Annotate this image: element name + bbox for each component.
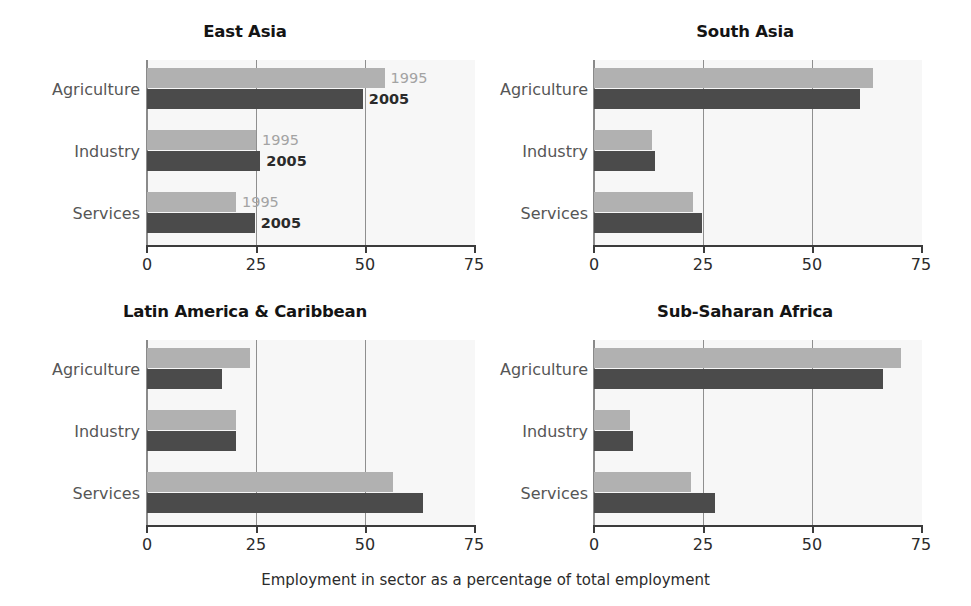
panel-title: Sub-Saharan Africa <box>525 302 965 321</box>
bar-agriculture-2005 <box>594 89 860 109</box>
x-tick-label-0: 0 <box>589 255 599 274</box>
bar-industry-2005 <box>594 151 655 171</box>
bar-industry-1995 <box>147 130 256 150</box>
bar-services-2005 <box>594 493 715 513</box>
category-label-agriculture: Agriculture <box>0 79 140 98</box>
plot-area: 0 25 50 75 <box>594 60 922 245</box>
x-tick-50 <box>365 526 367 533</box>
plot-area: 0 25 50 75 <box>594 340 922 525</box>
x-axis-line <box>593 245 923 247</box>
bar-agriculture-2005 <box>147 89 363 109</box>
bar-industry-1995 <box>594 130 652 150</box>
x-tick-label-50: 50 <box>355 255 375 274</box>
x-tick-25 <box>256 526 258 533</box>
category-label-industry: Industry <box>0 141 140 160</box>
x-tick-label-0: 0 <box>142 535 152 554</box>
bar-industry-2005 <box>147 151 260 171</box>
chart-figure: East Asia 0 25 50 75 1995200519952005199… <box>0 0 971 606</box>
series-note-services-1995: 1995 <box>242 194 279 210</box>
bar-industry-1995 <box>594 410 630 430</box>
category-label-industry: Industry <box>443 141 588 160</box>
series-note-industry-2005: 2005 <box>266 153 306 169</box>
series-note-industry-1995: 1995 <box>262 132 299 148</box>
bar-agriculture-1995 <box>147 68 385 88</box>
category-label-industry: Industry <box>443 421 588 440</box>
bar-services-2005 <box>147 213 255 233</box>
x-tick-label-50: 50 <box>802 535 822 554</box>
category-label-services: Services <box>443 203 588 222</box>
series-note-agriculture-1995: 1995 <box>391 70 428 86</box>
bar-industry-2005 <box>594 431 633 451</box>
panel-title: East Asia <box>25 22 465 41</box>
series-note-services-2005: 2005 <box>261 215 301 231</box>
category-label-services: Services <box>0 483 140 502</box>
x-tick-50 <box>365 246 367 253</box>
x-tick-0 <box>146 526 148 533</box>
x-tick-label-50: 50 <box>355 535 375 554</box>
x-tick-25 <box>703 526 705 533</box>
category-label-industry: Industry <box>0 421 140 440</box>
x-tick-label-25: 25 <box>246 535 266 554</box>
panel-latin-america-caribbean: Latin America & Caribbean 0 25 50 75 Agr… <box>0 292 470 572</box>
panel-title: Latin America & Caribbean <box>25 302 465 321</box>
x-axis-line <box>146 525 476 527</box>
series-note-agriculture-2005: 2005 <box>369 91 409 107</box>
bar-industry-2005 <box>147 431 236 451</box>
bar-services-1995 <box>594 192 693 212</box>
x-tick-0 <box>146 246 148 253</box>
x-tick-75 <box>921 526 923 533</box>
category-label-services: Services <box>0 203 140 222</box>
bar-industry-1995 <box>147 410 236 430</box>
bar-agriculture-1995 <box>594 68 873 88</box>
x-axis-line <box>593 525 923 527</box>
x-tick-label-0: 0 <box>589 535 599 554</box>
panel-south-asia: South Asia 0 25 50 75 AgricultureIndustr… <box>465 12 935 292</box>
bar-services-2005 <box>147 493 423 513</box>
bar-agriculture-1995 <box>594 348 901 368</box>
x-tick-0 <box>593 526 595 533</box>
category-label-services: Services <box>443 483 588 502</box>
panel-sub-saharan-africa: Sub-Saharan Africa 0 25 50 75 Agricultur… <box>465 292 935 572</box>
plot-area: 0 25 50 75 <box>147 340 475 525</box>
x-tick-label-25: 25 <box>693 535 713 554</box>
category-label-agriculture: Agriculture <box>0 359 140 378</box>
bar-services-1995 <box>147 472 393 492</box>
panel-east-asia: East Asia 0 25 50 75 1995200519952005199… <box>0 12 470 292</box>
category-label-agriculture: Agriculture <box>443 359 588 378</box>
x-tick-label-50: 50 <box>802 255 822 274</box>
x-tick-75 <box>921 246 923 253</box>
plot-area: 0 25 50 75 199520051995200519952005 <box>147 60 475 245</box>
x-tick-50 <box>812 526 814 533</box>
bar-agriculture-2005 <box>594 369 883 389</box>
x-tick-25 <box>256 246 258 253</box>
x-tick-label-75: 75 <box>911 255 931 274</box>
category-label-agriculture: Agriculture <box>443 79 588 98</box>
panel-title: South Asia <box>525 22 965 41</box>
x-tick-0 <box>593 246 595 253</box>
x-tick-50 <box>812 246 814 253</box>
x-axis-title: Employment in sector as a percentage of … <box>0 571 971 589</box>
x-tick-label-0: 0 <box>142 255 152 274</box>
x-tick-label-75: 75 <box>911 535 931 554</box>
x-tick-label-25: 25 <box>246 255 266 274</box>
bar-services-1995 <box>594 472 691 492</box>
bar-agriculture-2005 <box>147 369 222 389</box>
bar-agriculture-1995 <box>147 348 250 368</box>
x-tick-25 <box>703 246 705 253</box>
bar-services-2005 <box>594 213 702 233</box>
x-axis-line <box>146 245 476 247</box>
bar-services-1995 <box>147 192 236 212</box>
x-tick-label-25: 25 <box>693 255 713 274</box>
